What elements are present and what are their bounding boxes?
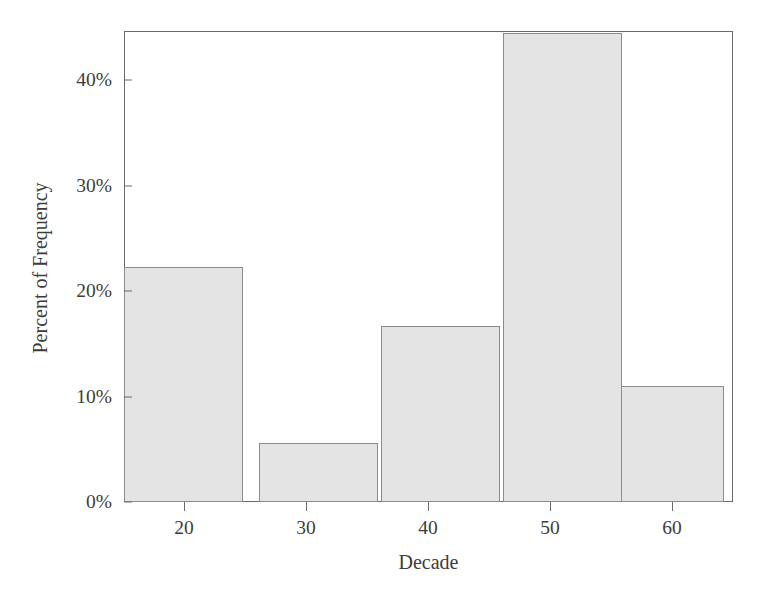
x-tick-mark-30 xyxy=(306,502,307,511)
bar-decade-40 xyxy=(381,326,500,502)
bar-decade-60 xyxy=(621,386,724,502)
bar-decade-50 xyxy=(503,33,622,502)
x-tick-mark-20 xyxy=(184,502,185,511)
bar-decade-30 xyxy=(259,443,378,502)
x-axis-title: Decade xyxy=(124,552,733,572)
x-tick-mark-40 xyxy=(428,502,429,511)
bars-container xyxy=(124,31,733,502)
x-tick-label-40: 40 xyxy=(388,518,468,538)
y-tick-mark-0 xyxy=(124,502,132,503)
y-tick-mark-20 xyxy=(124,291,132,292)
x-tick-label-30: 30 xyxy=(266,518,346,538)
x-tick-label-50: 50 xyxy=(510,518,590,538)
x-tick-label-20: 20 xyxy=(144,518,224,538)
y-tick-mark-40 xyxy=(124,80,132,81)
y-tick-mark-30 xyxy=(124,186,132,187)
x-tick-mark-60 xyxy=(672,502,673,511)
bar-chart-figure: 40% 30% 20% 10% 0% 20 30 40 50 60 Percen… xyxy=(0,0,774,608)
y-tick-mark-10 xyxy=(124,397,132,398)
y-axis-title: Percent of Frequency xyxy=(22,33,58,504)
bar-decade-20 xyxy=(124,267,243,502)
x-tick-mark-50 xyxy=(550,502,551,511)
x-tick-label-60: 60 xyxy=(632,518,712,538)
